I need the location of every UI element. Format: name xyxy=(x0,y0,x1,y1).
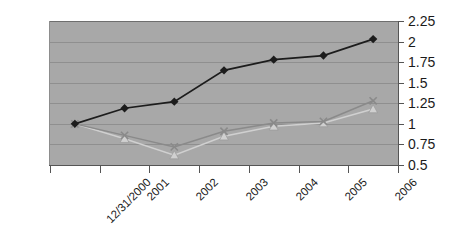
data-point-marker xyxy=(270,55,278,63)
data-point-marker xyxy=(120,104,128,112)
data-point-marker xyxy=(220,66,228,74)
series-x xyxy=(71,97,376,150)
series-layer xyxy=(0,0,464,250)
series-diamond xyxy=(71,35,378,128)
data-point-marker xyxy=(170,97,178,105)
line-chart: 2.2521.751.51.2510.750.5 12/31/200020012… xyxy=(0,0,464,250)
data-point-marker xyxy=(369,105,378,113)
series-line xyxy=(75,39,373,124)
data-point-marker xyxy=(370,97,377,104)
data-point-marker xyxy=(319,51,327,59)
data-point-marker xyxy=(369,35,377,43)
